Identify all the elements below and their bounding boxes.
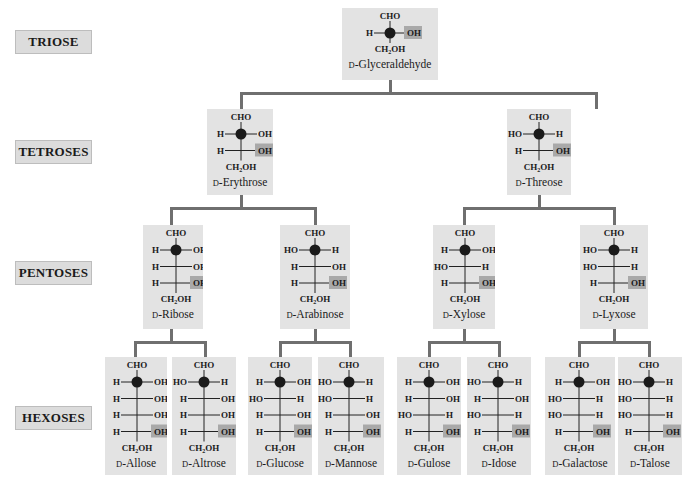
- left-substituent: H: [180, 427, 187, 437]
- hydroxymethyl-group: CH2OH: [122, 443, 153, 454]
- stereocenter-dot: [460, 245, 471, 256]
- sugar-name: D-Arabinose: [280, 308, 350, 320]
- left-substituent: H: [625, 427, 632, 437]
- aldehyde-group: CHO: [166, 228, 187, 238]
- left-substituent: H: [113, 427, 120, 437]
- sugar-name: D-Galactose: [545, 457, 615, 469]
- right-substituent: OH: [154, 427, 167, 437]
- left-substituent: H: [474, 394, 481, 404]
- sugar-name: D-Erythrose: [207, 176, 273, 188]
- right-substituent: H: [332, 245, 339, 255]
- sugar-d-erythrose: CHOHOHHOHCH2OHD-Erythrose: [207, 109, 273, 195]
- hydroxymethyl-group: CH2OH: [564, 443, 595, 454]
- hydroxymethyl-group: CH2OH: [189, 443, 220, 454]
- right-substituent: OH: [446, 394, 460, 404]
- sugar-d-talose: CHOHOHHOHHOHHOHCH2OHD-Talose: [618, 357, 682, 475]
- row-label-hexoses: HEXOSES: [15, 406, 92, 430]
- d-prefix: D: [515, 178, 521, 188]
- right-substituent: OH: [297, 427, 311, 437]
- left-substituent: H: [152, 262, 159, 272]
- right-substituent: OH: [515, 427, 529, 437]
- right-substituent: OH: [332, 262, 346, 272]
- left-substituent: H: [291, 278, 298, 288]
- left-substituent: HO: [318, 394, 332, 404]
- stereocenter-dot: [199, 377, 210, 388]
- right-substituent: H: [666, 377, 673, 387]
- right-substituent: OH: [596, 427, 610, 437]
- row-label-triose: TRIOSE: [15, 30, 92, 54]
- right-substituent: H: [515, 410, 522, 420]
- left-substituent: H: [113, 377, 120, 387]
- aldehyde-group: CHO: [569, 360, 590, 370]
- sugar-name: D-Gulose: [397, 457, 461, 469]
- left-substituent: H: [113, 394, 120, 404]
- stereocenter-dot: [385, 28, 396, 39]
- left-substituent: H: [180, 410, 187, 420]
- aldehyde-group: CHO: [488, 360, 509, 370]
- left-substituent: HO: [467, 410, 481, 420]
- aldehyde-group: CHO: [231, 112, 252, 122]
- d-prefix: D: [213, 178, 219, 188]
- left-substituent: H: [152, 245, 159, 255]
- stereocenter-dot: [609, 245, 620, 256]
- right-substituent: H: [556, 129, 563, 139]
- right-substituent: OH: [154, 394, 167, 404]
- hydroxymethyl-group: CH2OH: [414, 443, 445, 454]
- aldehyde-group: CHO: [529, 112, 550, 122]
- left-substituent: H: [180, 394, 187, 404]
- sugar-d-glucose: CHOHOHHOHHOHHOHCH2OHD-Glucose: [248, 357, 312, 475]
- right-substituent: H: [297, 394, 304, 404]
- right-substituent: H: [366, 394, 373, 404]
- sugar-name-text: -Allose: [122, 457, 156, 469]
- right-substituent: OH: [258, 129, 272, 139]
- left-substituent: H: [405, 394, 412, 404]
- aldehyde-group: CHO: [270, 360, 291, 370]
- stereocenter-dot: [171, 245, 182, 256]
- aldehyde-group: CHO: [455, 228, 476, 238]
- right-substituent: OH: [446, 427, 460, 437]
- sugar-name: D-Mannose: [318, 457, 384, 469]
- right-substituent: H: [221, 377, 228, 387]
- left-substituent: H: [366, 28, 373, 38]
- right-substituent: OH: [221, 394, 235, 404]
- sugar-name: D-Altrose: [172, 457, 236, 469]
- left-substituent: H: [515, 146, 522, 156]
- left-substituent: H: [590, 278, 597, 288]
- left-substituent: HO: [398, 410, 412, 420]
- right-substituent: OH: [193, 245, 203, 255]
- aldehyde-group: CHO: [194, 360, 215, 370]
- stereocenter-dot: [534, 129, 545, 140]
- left-substituent: H: [256, 377, 263, 387]
- right-substituent: OH: [596, 377, 610, 387]
- right-substituent: OH: [332, 278, 346, 288]
- right-substituent: H: [596, 394, 603, 404]
- left-substituent: HO: [173, 377, 187, 387]
- sugar-name-text: -Glyceraldehyde: [355, 58, 432, 70]
- left-substituent: HO: [434, 262, 448, 272]
- left-substituent: H: [441, 245, 448, 255]
- row-label-pentoses: PENTOSES: [15, 261, 92, 285]
- left-substituent: H: [405, 377, 412, 387]
- right-substituent: OH: [446, 377, 460, 387]
- sugar-name: D-Allose: [105, 457, 167, 469]
- sugar-d-galactose: CHOHOHHOHHOHHOHCH2OHD-Galactose: [545, 357, 615, 475]
- left-substituent: HO: [284, 245, 298, 255]
- right-substituent: H: [666, 410, 673, 420]
- sugar-d-allose: CHOHOHHOHHOHHOHCH2OHD-Allose: [105, 357, 167, 475]
- hydroxymethyl-group: CH2OH: [300, 294, 331, 305]
- right-substituent: OH: [556, 146, 570, 156]
- left-substituent: HO: [548, 410, 562, 420]
- d-prefix: D: [443, 310, 449, 320]
- hydroxymethyl-group: CH2OH: [161, 294, 192, 305]
- hydroxymethyl-group: CH2OH: [524, 162, 555, 173]
- left-substituent: HO: [618, 410, 632, 420]
- left-substituent: HO: [618, 377, 632, 387]
- hydroxymethyl-group: CH2OH: [599, 294, 630, 305]
- right-substituent: OH: [631, 278, 645, 288]
- right-substituent: H: [666, 394, 673, 404]
- d-prefix: D: [349, 60, 355, 70]
- left-substituent: H: [555, 427, 562, 437]
- sugar-name: D-Ribose: [143, 308, 203, 320]
- sugar-name-text: -Mannose: [331, 457, 377, 469]
- right-substituent: OH: [666, 427, 680, 437]
